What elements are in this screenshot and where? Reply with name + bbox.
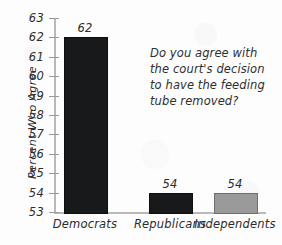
bar-republicans[interactable] — [149, 193, 193, 214]
y-tick-label: 55 — [0, 166, 44, 180]
y-tick-label: 59 — [0, 89, 44, 103]
bar-value-label: 54 — [140, 177, 200, 191]
question-line-1: Do you agree with — [150, 45, 278, 61]
survey-question-annotation: Do you agree with the court's decision t… — [150, 45, 278, 109]
bar-independents[interactable] — [214, 193, 258, 214]
bar-democrats[interactable] — [64, 37, 108, 214]
bar-chart-figure: Percent Who Agree 6362616059585756555453… — [0, 0, 282, 245]
y-tick-mark — [49, 134, 59, 135]
y-tick-mark — [49, 212, 59, 213]
y-tick-mark — [49, 193, 59, 194]
y-tick-mark — [49, 154, 59, 155]
y-tick-mark — [49, 37, 59, 38]
y-tick-mark — [49, 96, 59, 97]
y-tick-label: 57 — [0, 127, 44, 141]
y-tick-label: 63 — [0, 11, 44, 25]
y-tick-label: 56 — [0, 147, 44, 161]
y-tick-mark — [49, 76, 59, 77]
y-tick-label: 62 — [0, 30, 44, 44]
y-tick-mark — [49, 18, 59, 19]
bar-value-label: 62 — [55, 21, 115, 35]
question-line-2: the court's decision — [150, 61, 278, 77]
y-tick-mark — [49, 173, 59, 174]
question-line-4: tube removed? — [150, 93, 278, 109]
y-tick-label: 60 — [0, 69, 44, 83]
y-tick-mark — [49, 115, 59, 116]
bar-value-label: 54 — [205, 177, 265, 191]
x-category-label: Independents — [180, 217, 282, 231]
y-tick-mark — [49, 57, 59, 58]
y-tick-label: 58 — [0, 108, 44, 122]
y-tick-label: 61 — [0, 50, 44, 64]
y-axis-line — [54, 18, 56, 214]
question-line-3: to have the feeding — [150, 77, 278, 93]
y-tick-label: 54 — [0, 186, 44, 200]
